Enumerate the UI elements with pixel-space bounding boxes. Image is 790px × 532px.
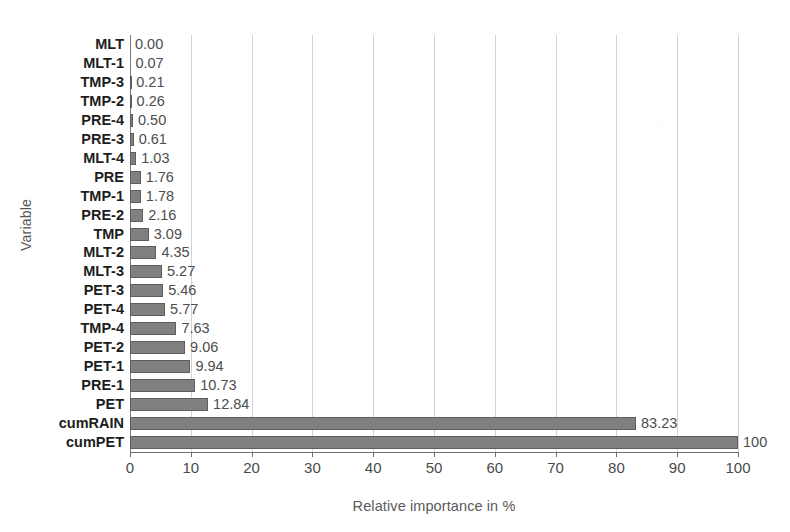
- x-tick-20: [252, 452, 253, 457]
- bar-value-label: 1.78: [146, 187, 174, 206]
- bar-value-label: 5.46: [168, 281, 196, 300]
- category-label: MLT-1: [0, 54, 124, 73]
- x-tick-label-90: 90: [669, 459, 686, 476]
- bar-value-label: 7.63: [181, 319, 209, 338]
- x-tick-label-80: 80: [608, 459, 625, 476]
- x-tick-40: [373, 452, 374, 457]
- bar-value-label: 0.21: [136, 73, 164, 92]
- bar-row: PET-45.77: [0, 300, 790, 319]
- bar: [130, 341, 185, 354]
- bar: [130, 417, 636, 430]
- bar-value-label: 100: [743, 433, 767, 452]
- bar-row: TMP-30.21: [0, 73, 790, 92]
- category-label: PRE-4: [0, 111, 124, 130]
- bar-row: TMP3.09: [0, 225, 790, 244]
- bar: [130, 95, 132, 108]
- bar-value-label: 83.23: [641, 414, 677, 433]
- category-label: TMP-2: [0, 92, 124, 111]
- x-tick-100: [738, 452, 739, 457]
- category-label: PET-4: [0, 300, 124, 319]
- bar-chart: Variable Relative importance in % 010203…: [0, 0, 790, 532]
- category-label: MLT-2: [0, 243, 124, 262]
- bar-row: PRE1.76: [0, 168, 790, 187]
- category-label: PET-2: [0, 338, 124, 357]
- x-tick-90: [677, 452, 678, 457]
- category-label: PRE: [0, 168, 124, 187]
- bar: [130, 284, 163, 297]
- bar-row: PET12.84: [0, 395, 790, 414]
- bar-row: TMP-20.26: [0, 92, 790, 111]
- bar-value-label: 4.35: [161, 243, 189, 262]
- bar-value-label: 2.16: [148, 206, 176, 225]
- x-tick-label-20: 20: [243, 459, 260, 476]
- category-label: PET-3: [0, 281, 124, 300]
- x-tick-label-60: 60: [486, 459, 503, 476]
- bar-value-label: 3.09: [154, 225, 182, 244]
- bar-row: PET-29.06: [0, 338, 790, 357]
- bar-value-label: 1.03: [141, 149, 169, 168]
- bar-row: MLT-10.07: [0, 54, 790, 73]
- x-tick-label-100: 100: [725, 459, 750, 476]
- bar-row: MLT0.00: [0, 35, 790, 54]
- bar: [130, 265, 162, 278]
- x-tick-label-70: 70: [547, 459, 564, 476]
- bar-row: MLT-35.27: [0, 262, 790, 281]
- bar: [130, 436, 738, 449]
- x-tick-50: [434, 452, 435, 457]
- category-label: TMP: [0, 225, 124, 244]
- category-label: TMP-4: [0, 319, 124, 338]
- bar-value-label: 9.06: [190, 338, 218, 357]
- bar-value-label: 9.94: [195, 357, 223, 376]
- bar-row: PRE-30.61: [0, 130, 790, 149]
- bar-row: TMP-47.63: [0, 319, 790, 338]
- bar: [130, 133, 134, 146]
- x-tick-70: [556, 452, 557, 457]
- bar-row: TMP-11.78: [0, 187, 790, 206]
- bar-row: PRE-22.16: [0, 206, 790, 225]
- x-tick-label-30: 30: [304, 459, 321, 476]
- bar: [130, 228, 149, 241]
- x-tick-80: [616, 452, 617, 457]
- bar-row: PRE-40.50: [0, 111, 790, 130]
- category-label: MLT-4: [0, 149, 124, 168]
- bar: [130, 398, 208, 411]
- bar-row: PRE-110.73: [0, 376, 790, 395]
- category-label: cumRAIN: [0, 414, 124, 433]
- x-tick-60: [495, 452, 496, 457]
- category-label: PRE-3: [0, 130, 124, 149]
- bar-value-label: 1.76: [146, 168, 174, 187]
- bar: [130, 246, 156, 259]
- bar-value-label: 10.73: [200, 376, 236, 395]
- category-label: PET-1: [0, 357, 124, 376]
- x-tick-10: [191, 452, 192, 457]
- category-label: MLT: [0, 35, 124, 54]
- category-label: PET: [0, 395, 124, 414]
- x-tick-0: [130, 452, 131, 457]
- x-tick-label-0: 0: [126, 459, 134, 476]
- x-axis-title: Relative importance in %: [130, 498, 738, 514]
- x-tick-label-10: 10: [182, 459, 199, 476]
- bar: [130, 76, 132, 89]
- bar-value-label: 5.27: [167, 262, 195, 281]
- bar: [130, 171, 141, 184]
- x-tick-30: [312, 452, 313, 457]
- category-label: MLT-3: [0, 262, 124, 281]
- bar: [130, 303, 165, 316]
- bar-value-label: 0.26: [137, 92, 165, 111]
- bar: [130, 209, 143, 222]
- bar-value-label: 0.61: [139, 130, 167, 149]
- x-tick-label-40: 40: [365, 459, 382, 476]
- bar-value-label: 12.84: [213, 395, 249, 414]
- bar-value-label: 0.07: [135, 54, 163, 73]
- x-tick-label-50: 50: [426, 459, 443, 476]
- bar-value-label: 5.77: [170, 300, 198, 319]
- category-label: TMP-3: [0, 73, 124, 92]
- bar-row: PET-19.94: [0, 357, 790, 376]
- bar: [130, 360, 190, 373]
- bar: [130, 322, 176, 335]
- bar-row: MLT-24.35: [0, 243, 790, 262]
- category-label: PRE-2: [0, 206, 124, 225]
- bar-row: PET-35.46: [0, 281, 790, 300]
- bar-row: cumPET100: [0, 433, 790, 452]
- category-label: cumPET: [0, 433, 124, 452]
